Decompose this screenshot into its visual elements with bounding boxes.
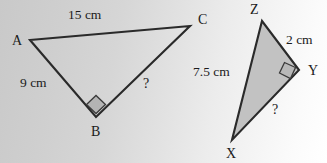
side-label-xy-unknown: ? bbox=[272, 102, 278, 117]
vertex-label-x: X bbox=[226, 146, 236, 161]
side-label-xz: 7.5 cm bbox=[193, 64, 230, 79]
side-label-ab: 9 cm bbox=[20, 75, 47, 90]
side-label-ac: 15 cm bbox=[68, 7, 102, 22]
side-label-bc-unknown: ? bbox=[143, 76, 149, 91]
triangle-abc-outline bbox=[30, 26, 190, 117]
triangle-xyz: Z Y X 2 cm 7.5 cm ? bbox=[193, 2, 318, 161]
geometry-svg: A C B 15 cm 9 cm ? Z Y X 2 cm 7.5 cm ? bbox=[0, 0, 327, 163]
vertex-label-z: Z bbox=[250, 2, 259, 17]
vertex-label-b: B bbox=[91, 124, 100, 139]
side-label-zy: 2 cm bbox=[286, 32, 313, 47]
triangle-abc: A C B 15 cm 9 cm ? bbox=[12, 7, 207, 139]
vertex-label-a: A bbox=[12, 33, 23, 48]
geometry-figure: A C B 15 cm 9 cm ? Z Y X 2 cm 7.5 cm ? bbox=[0, 0, 327, 163]
vertex-label-c: C bbox=[198, 12, 207, 27]
vertex-label-y: Y bbox=[308, 63, 318, 78]
